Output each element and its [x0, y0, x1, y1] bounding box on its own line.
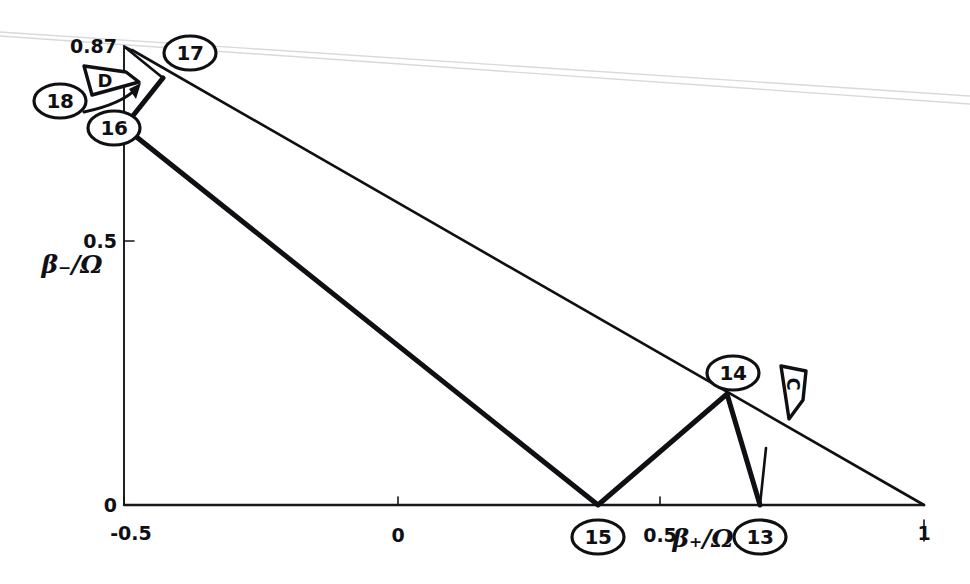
x-axis-title: β₊/Ω [671, 524, 734, 553]
node-17-label: 17 [177, 41, 204, 65]
node-marker-16[interactable]: 16 [88, 111, 140, 145]
node-markers: 13 14 15 16 17 18 [34, 36, 786, 554]
y-tick-label-top: 0.87 [70, 35, 117, 57]
segment-14-13-right [760, 448, 766, 505]
node-marker-18[interactable]: 18 [34, 84, 86, 118]
node-marker-17[interactable]: 17 [164, 36, 216, 70]
plot-canvas: 13 14 15 16 17 18 [0, 0, 970, 584]
node-marker-13[interactable]: 13 [734, 520, 786, 554]
node-15-label: 15 [585, 525, 612, 549]
node-marker-15[interactable]: 15 [572, 520, 624, 554]
scan-artifact-lines [0, 32, 970, 104]
annotation-d[interactable]: D [84, 66, 141, 112]
wedge-d-label: D [98, 70, 113, 91]
node-marker-14[interactable]: 14 [707, 356, 759, 390]
upper-boundary-line [132, 50, 924, 505]
wedge-c-label: C [783, 377, 804, 390]
node-16-label: 16 [101, 116, 128, 140]
tick-labels: 0.87 0.5 0 -0.5 0 0.5 1 [70, 35, 931, 546]
node-14-label: 14 [720, 361, 747, 385]
wedge-c-shape [781, 366, 806, 419]
segment-top-to-17 [126, 48, 163, 78]
trajectory-polyline [124, 78, 760, 505]
x-tick-label-neg-half: -0.5 [110, 522, 152, 544]
x-tick-label-one: 1 [917, 522, 930, 544]
annotation-c[interactable]: C [781, 366, 806, 419]
y-axis-title: β₋/Ω [40, 250, 103, 279]
axis-group [124, 46, 924, 541]
y-tick-label-zero: 0 [104, 494, 117, 516]
node-18-label: 18 [47, 89, 74, 113]
x-tick-label-zero: 0 [391, 524, 404, 546]
node-13-label: 13 [747, 525, 774, 549]
figure-container: 13 14 15 16 17 18 [0, 0, 970, 584]
